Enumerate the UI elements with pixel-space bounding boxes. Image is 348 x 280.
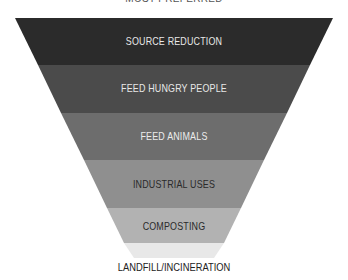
level-landfill-tip <box>124 243 224 258</box>
level-label-industrial-uses: INDUSTRIAL USES <box>26 178 322 190</box>
level-label-source-reduction: SOURCE REDUCTION <box>26 35 322 47</box>
level-label-composting: COMPOSTING <box>26 220 322 232</box>
bottom-label: LANDFILL/INCINERATION <box>26 261 322 273</box>
level-label-feed-hungry-people: FEED HUNGRY PEOPLE <box>26 82 322 94</box>
level-label-feed-animals: FEED ANIMALS <box>26 130 322 142</box>
